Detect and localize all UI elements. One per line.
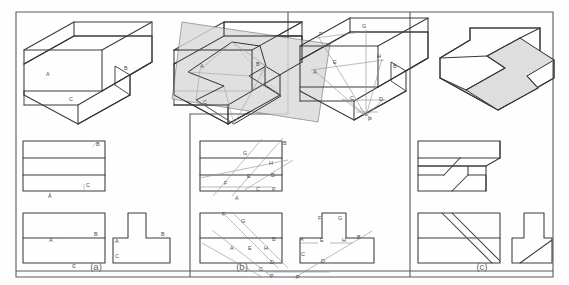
view-label: G — [338, 215, 342, 221]
view-label: B — [357, 234, 361, 240]
iso-label: B — [256, 61, 260, 67]
view-label: G — [243, 150, 247, 156]
iso-label: D — [379, 96, 383, 102]
view-label: A — [235, 195, 239, 201]
view-label: H — [264, 245, 268, 251]
view-label: A — [49, 237, 53, 243]
view-label: B — [94, 231, 98, 237]
technical-drawing-figure: .ln { fill:none; stroke:#333333; stroke-… — [0, 0, 569, 285]
view-label: A — [48, 193, 52, 199]
view-label: B — [272, 236, 276, 242]
iso-label: B — [393, 63, 397, 69]
view-label: C — [86, 182, 90, 188]
view-label: P — [270, 273, 274, 279]
panel-b-caption: (b) — [236, 261, 248, 272]
view-label: P — [272, 186, 276, 192]
view-label: G — [241, 218, 245, 224]
iso-label: P — [368, 116, 372, 122]
view-label: E — [320, 237, 324, 243]
view-label: D — [321, 258, 325, 264]
iso-label: A — [46, 71, 50, 77]
iso-label: E — [333, 59, 337, 65]
view-label: C — [301, 251, 305, 257]
view-label: B — [96, 141, 100, 147]
view-label: H — [342, 237, 346, 243]
view-label: H — [269, 160, 273, 166]
view-label: C — [72, 263, 76, 269]
view-label: A — [300, 236, 304, 242]
iso-label: A — [200, 63, 204, 69]
view-label: E — [247, 173, 251, 179]
drawing-stage: .ln { fill:none; stroke:#333333; stroke-… — [0, 0, 569, 285]
panel-a-caption: (a) — [90, 261, 102, 272]
view-label: C — [256, 186, 260, 192]
view-label: C — [115, 253, 119, 259]
view-label: B — [283, 140, 287, 146]
view-label: A — [115, 238, 119, 244]
view-label: A — [230, 245, 234, 251]
view-label: D — [270, 259, 274, 265]
view-label: B — [161, 231, 165, 237]
iso-label: A — [313, 69, 317, 75]
panel-c-caption: (c) — [476, 261, 487, 272]
view-label: P — [296, 274, 300, 280]
iso-label: B — [124, 65, 128, 71]
view-label: D — [271, 172, 275, 178]
iso-label: C — [203, 99, 207, 105]
iso-label: G — [362, 23, 366, 29]
iso-label: C — [350, 95, 354, 101]
view-label: E — [248, 245, 252, 251]
iso-label: C — [69, 96, 73, 102]
iso-label: H — [377, 53, 381, 59]
view-label: C — [259, 266, 263, 272]
